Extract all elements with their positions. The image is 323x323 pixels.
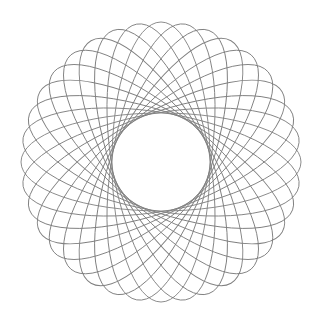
canvas-background [0,0,323,323]
spirograph-figure [0,0,323,323]
